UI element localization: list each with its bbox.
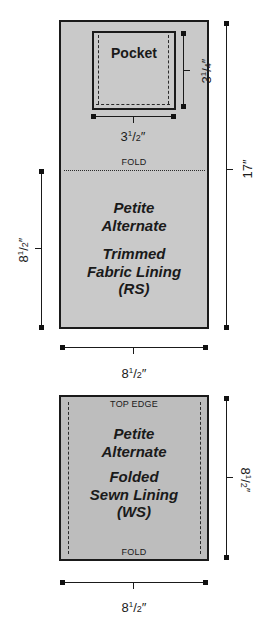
title-line: Alternate <box>59 217 209 235</box>
dimension-endpoint-marker <box>224 325 229 330</box>
fold-label: FOLD <box>59 157 209 167</box>
subtitle-line: Folded <box>59 468 209 486</box>
subtitle-line: (WS) <box>59 503 209 521</box>
dimension-midpoint-tick <box>35 248 41 249</box>
panel-title: Petite Alternate <box>59 199 209 234</box>
dimension-endpoint-marker <box>224 555 229 560</box>
dimension-endpoint-marker <box>224 21 229 26</box>
pocket-width-dimension-label: 31/2″ <box>108 127 158 145</box>
dimension-midpoint-tick <box>227 169 233 170</box>
subtitle-line: (RS) <box>59 280 209 298</box>
dimension-endpoint-marker <box>60 345 65 350</box>
panel-width-dimension-label: 81/2″ <box>108 598 160 616</box>
subtitle-line: Sewn Lining <box>59 486 209 504</box>
panel-width-dimension-line <box>63 347 206 348</box>
fold-label: FOLD <box>59 547 209 557</box>
dimension-endpoint-marker <box>60 580 65 585</box>
title-line: Petite <box>59 425 209 443</box>
panel-subtitle: Folded Sewn Lining (WS) <box>59 468 209 521</box>
panel-height-dimension-label: 81/2″ <box>237 458 255 502</box>
dimension-midpoint-tick <box>133 348 134 354</box>
dimension-endpoint-marker <box>39 325 44 330</box>
panel-subtitle: Trimmed Fabric Lining (RS) <box>59 245 209 298</box>
top-edge-label: TOP EDGE <box>59 399 209 409</box>
half-height-dimension-label: 81/2″ <box>14 230 32 270</box>
panel-width-dimension-line <box>63 582 206 583</box>
pocket-height-dimension-label: 31/4″ <box>197 51 215 91</box>
pocket-rectangle <box>92 31 176 110</box>
total-height-dimension-label: 17″ <box>241 149 255 189</box>
dimension-endpoint-marker <box>224 396 229 401</box>
pocket-label: Pocket <box>92 45 176 61</box>
dimension-midpoint-tick <box>184 70 190 71</box>
subtitle-line: Fabric Lining <box>59 263 209 281</box>
dimension-endpoint-marker <box>203 345 208 350</box>
panel-height-dimension-line <box>226 399 227 558</box>
dimension-endpoint-marker <box>181 31 186 36</box>
dimension-midpoint-tick <box>133 583 134 589</box>
dimension-endpoint-marker <box>171 114 176 119</box>
subtitle-line: Trimmed <box>59 245 209 263</box>
pocket-bottom-seam-line <box>96 104 170 105</box>
dimension-midpoint-tick <box>227 477 233 478</box>
dimension-midpoint-tick <box>133 117 134 123</box>
dimension-endpoint-marker <box>39 169 44 174</box>
total-height-dimension-line <box>226 24 227 328</box>
dimension-endpoint-marker <box>181 104 186 109</box>
half-height-dimension-line <box>41 172 42 328</box>
title-line: Alternate <box>59 443 209 461</box>
panel-width-dimension-label: 81/2″ <box>108 364 160 382</box>
fold-line <box>64 170 205 171</box>
dimension-endpoint-marker <box>91 114 96 119</box>
title-line: Petite <box>59 199 209 217</box>
panel-title: Petite Alternate <box>59 425 209 460</box>
dimension-endpoint-marker <box>203 580 208 585</box>
